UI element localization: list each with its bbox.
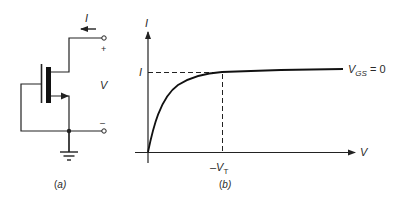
circuit-current-label: I bbox=[85, 12, 88, 24]
y-tick-label: I bbox=[139, 66, 142, 78]
figure-svg: I + V – (a) I I V –VT VGS = 0 (b) bbox=[0, 0, 399, 198]
x-tick-label: –VT bbox=[209, 161, 228, 176]
ground-icon bbox=[60, 152, 78, 160]
x-axis-label: V bbox=[360, 146, 369, 158]
minus-label: – bbox=[100, 118, 105, 128]
curve-label: VGS = 0 bbox=[348, 63, 386, 78]
vgs-zero-curve bbox=[148, 69, 343, 152]
gate-wire bbox=[21, 84, 102, 131]
y-axis-label: I bbox=[145, 17, 148, 29]
figure: I + V – (a) I I V –VT VGS = 0 (b) bbox=[0, 0, 399, 198]
drain-wire bbox=[51, 38, 102, 72]
terminal-plus-icon bbox=[102, 36, 106, 40]
voltage-label: V bbox=[100, 79, 109, 91]
plus-label: + bbox=[101, 44, 106, 54]
source-wire bbox=[51, 96, 69, 152]
source-arrow-icon bbox=[61, 93, 69, 100]
caption-b: (b) bbox=[219, 179, 231, 190]
nmos-depletion-transistor-icon bbox=[46, 67, 51, 103]
terminal-minus-icon bbox=[102, 129, 106, 133]
graph-b: I I V –VT VGS = 0 (b) bbox=[135, 17, 386, 190]
junction-dot bbox=[67, 129, 71, 133]
caption-a: (a) bbox=[54, 179, 66, 190]
